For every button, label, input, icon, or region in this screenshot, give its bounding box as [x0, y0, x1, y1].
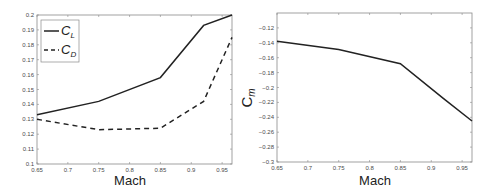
y-tick-label: 0.17: [22, 57, 34, 63]
x-tick-label: 0.7: [304, 165, 313, 171]
chart-left: 0.10.110.120.130.140.150.160.170.180.190…: [22, 12, 232, 188]
y-tick-label: 0.11: [23, 146, 35, 152]
x-tick-label: 0.75: [93, 167, 105, 173]
y-tick-label: 0.19: [22, 27, 34, 33]
y-tick-label: 0.2: [26, 12, 35, 18]
plot-area-right: [277, 13, 472, 162]
y-tick-label: −0.12: [259, 25, 275, 31]
figure: 0.10.110.120.130.140.150.160.170.180.190…: [0, 0, 482, 195]
y-tick-label: −0.24: [259, 114, 275, 120]
y-tick-label: −0.22: [259, 99, 275, 105]
x-axis-label-left: Mach: [114, 173, 146, 188]
y-tick-label: 0.13: [22, 116, 34, 122]
x-tick-label: 0.85: [155, 167, 167, 173]
x-tick-label: 0.65: [31, 167, 43, 173]
y-tick-label: 0.18: [22, 42, 34, 48]
x-tick-label: 0.7: [64, 167, 73, 173]
series-cm-line: [277, 41, 472, 121]
y-tick-label: −0.26: [259, 129, 275, 135]
y-tick-label: −0.18: [259, 70, 275, 76]
y-axis-label-right: Cm: [238, 88, 257, 107]
x-tick-label: 0.9: [427, 165, 436, 171]
x-tick-label: 0.85: [395, 165, 407, 171]
y-tick-label: −0.14: [259, 40, 275, 46]
x-tick-label: 0.75: [333, 165, 345, 171]
x-tick-label: 0.9: [187, 167, 196, 173]
x-tick-label: 0.65: [271, 165, 283, 171]
x-tick-label: 0.95: [456, 165, 468, 171]
y-tick-label: 0.15: [22, 87, 34, 93]
x-tick-label: 0.95: [216, 167, 228, 173]
x-axis-label-right: Mach: [359, 173, 391, 188]
y-tick-label: 0.16: [22, 72, 34, 78]
y-tick-label: −0.2: [262, 85, 275, 91]
y-tick-label: −0.28: [259, 144, 275, 150]
y-tick-label: 0.12: [22, 131, 34, 137]
y-tick-label: 0.14: [22, 101, 34, 107]
y-tick-label: −0.16: [259, 55, 275, 61]
legend: CL CD: [41, 20, 79, 62]
x-axis-right: 0.650.70.750.80.850.90.95: [271, 13, 468, 171]
x-tick-label: 0.8: [365, 165, 374, 171]
chart-right: −0.12−0.14−0.16−0.18−0.2−0.22−0.24−0.26−…: [238, 13, 472, 188]
